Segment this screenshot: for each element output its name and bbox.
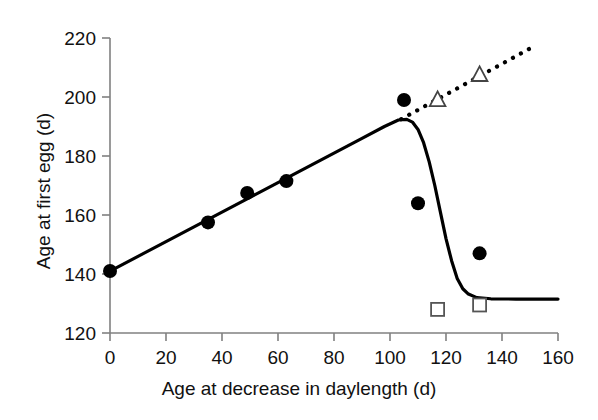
data-point-open-square <box>431 303 444 316</box>
x-ticks-group: 020406080100120140160 <box>105 333 574 368</box>
data-point-open-triangle <box>430 91 446 106</box>
chart-container: 120140160180200220 020406080100120140160… <box>0 0 598 420</box>
x-tick-label: 20 <box>155 347 176 368</box>
x-tick-label: 0 <box>105 347 116 368</box>
y-tick-label: 180 <box>64 146 96 167</box>
y-tick-label: 120 <box>64 323 96 344</box>
x-tick-label: 60 <box>267 347 288 368</box>
x-tick-label: 120 <box>430 347 462 368</box>
data-point-filled-circle <box>397 93 411 107</box>
data-point-filled-circle <box>473 246 487 260</box>
x-tick-label: 100 <box>374 347 406 368</box>
fitted-curves-group <box>110 45 558 299</box>
solid-fitted-curve <box>110 119 558 299</box>
data-point-open-square <box>473 298 486 311</box>
x-tick-label: 40 <box>211 347 232 368</box>
data-point-filled-circle <box>411 196 425 210</box>
y-tick-label: 140 <box>64 264 96 285</box>
y-axis-title: Age at first egg (d) <box>33 61 55 321</box>
y-tick-label: 160 <box>64 205 96 226</box>
y-tick-label: 220 <box>64 28 96 49</box>
x-tick-label: 140 <box>486 347 518 368</box>
data-point-filled-circle <box>279 174 293 188</box>
y-tick-label: 200 <box>64 87 96 108</box>
dotted-extrapolation-line <box>401 45 535 119</box>
chart-plot-area: 120140160180200220 020406080100120140160 <box>0 0 598 420</box>
x-axis-title: Age at decrease in daylength (d) <box>0 378 598 400</box>
data-point-filled-circle <box>240 186 254 200</box>
axes-group <box>110 38 558 333</box>
y-ticks-group: 120140160180200220 <box>64 28 110 344</box>
data-point-filled-circle <box>201 215 215 229</box>
x-tick-label: 160 <box>542 347 574 368</box>
data-markers-group <box>103 66 487 316</box>
x-tick-label: 80 <box>323 347 344 368</box>
data-point-filled-circle <box>103 264 117 278</box>
data-point-open-triangle <box>472 66 488 81</box>
